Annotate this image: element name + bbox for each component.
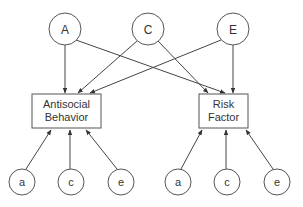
edge-e1-antisocial (86, 130, 117, 169)
node-c-right: c (214, 169, 240, 195)
node-risk-factor: Risk Factor (199, 94, 248, 128)
svg-text:E: E (229, 23, 237, 37)
svg-text:c: c (68, 176, 74, 188)
svg-text:Antisocial: Antisocial (43, 98, 90, 110)
svg-text:Factor: Factor (208, 111, 240, 123)
node-e-right: e (264, 169, 290, 195)
svg-text:Risk: Risk (213, 98, 235, 110)
node-antisocial-behavior: Antisocial Behavior (32, 94, 101, 128)
edge-e2-risk (246, 130, 273, 169)
node-C: C (132, 13, 164, 45)
edge-a1-antisocial (26, 130, 51, 169)
node-E: E (217, 13, 249, 45)
svg-text:a: a (175, 176, 182, 188)
svg-text:C: C (144, 23, 153, 37)
svg-text:a: a (19, 176, 26, 188)
path-diagram: A C E Antisocial Behavior Risk Factor a (0, 0, 303, 207)
node-e-left: e (108, 169, 134, 195)
svg-text:A: A (61, 23, 69, 37)
node-a-left: a (9, 169, 35, 195)
edge-a2-risk (181, 130, 202, 169)
node-a-right: a (165, 169, 191, 195)
node-A: A (49, 13, 81, 45)
node-c-left: c (58, 169, 84, 195)
svg-text:e: e (118, 176, 124, 188)
svg-text:e: e (274, 176, 280, 188)
svg-text:c: c (224, 176, 230, 188)
edge-C-antisocial (78, 41, 137, 93)
svg-text:Behavior: Behavior (45, 111, 89, 123)
